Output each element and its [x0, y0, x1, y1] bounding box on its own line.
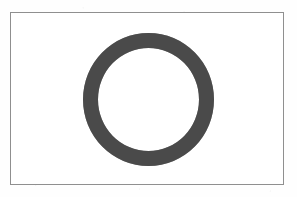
figure-frame-border: [10, 12, 284, 185]
figure-canvas: [0, 0, 297, 197]
ring-shape: [83, 33, 214, 166]
